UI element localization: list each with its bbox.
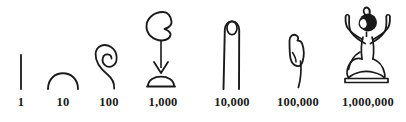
glyph-cell bbox=[262, 0, 334, 90]
glyph-cell bbox=[40, 0, 86, 90]
finger-glyph bbox=[217, 10, 247, 90]
glyph-cell bbox=[130, 0, 196, 90]
numeral-value-label: 1,000,000 bbox=[330, 95, 406, 110]
numeral-column-100000: 100,000 bbox=[262, 0, 334, 122]
tadpole-glyph bbox=[281, 28, 315, 90]
numeral-column-10: 10 bbox=[40, 0, 86, 122]
numeral-column-1000: 1,000 bbox=[130, 0, 196, 122]
coiled-rope-glyph bbox=[94, 42, 124, 90]
numeral-column-1000000: 1,000,000 bbox=[330, 0, 406, 122]
numeral-value-label: 1 bbox=[2, 95, 40, 110]
numeral-value-label: 10 bbox=[40, 95, 86, 110]
egyptian-numerals-chart: 1 10 100 bbox=[0, 0, 406, 122]
numeral-value-label: 10,000 bbox=[199, 95, 265, 110]
heel-bone-arch-glyph bbox=[43, 60, 83, 90]
heh-god-glyph bbox=[333, 4, 403, 90]
glyph-cell bbox=[330, 0, 406, 90]
lotus-flower-glyph bbox=[139, 10, 187, 90]
glyph-cell bbox=[86, 0, 132, 90]
glyph-cell bbox=[199, 0, 265, 90]
numeral-value-label: 100 bbox=[86, 95, 132, 110]
single-stroke-glyph bbox=[13, 54, 29, 90]
numeral-column-1: 1 bbox=[2, 0, 40, 122]
numeral-value-label: 1,000 bbox=[130, 95, 196, 110]
numeral-column-100: 100 bbox=[86, 0, 132, 122]
numeral-column-10000: 10,000 bbox=[199, 0, 265, 122]
numeral-value-label: 100,000 bbox=[262, 95, 334, 110]
glyph-cell bbox=[2, 0, 40, 90]
